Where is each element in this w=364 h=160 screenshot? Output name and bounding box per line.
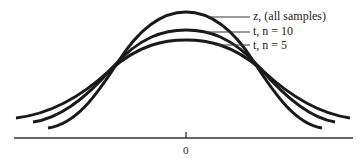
x-tick-label-zero: 0 <box>183 145 189 156</box>
label-t-n10: t, n = 10 <box>253 25 293 37</box>
label-z: z, (all samples) <box>253 10 326 22</box>
chart-canvas <box>0 0 364 160</box>
label-t-n5: t, n = 5 <box>253 39 287 51</box>
